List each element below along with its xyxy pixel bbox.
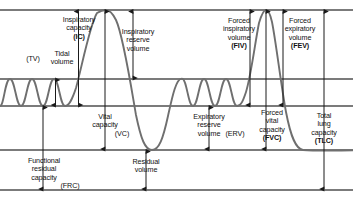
label-forced-expiratory-volume: Forced expiratory volume (FEV) [272,17,328,50]
label-functional-residual-capacity: Functional residual capacity [15,157,73,182]
label-forced-vital-capacity: Forced vital capacity (FVC) [249,109,295,142]
lung-volumes-diagram: Inspiratory capacity (IC) (TV) Tidal vol… [0,0,353,201]
label-vital-capacity-abbr: (VC) [110,130,134,138]
label-tidal-volume-abbr: (TV) [22,55,44,63]
label-tidal-volume: Tidal volume [43,50,81,67]
label-functional-residual-capacity-abbr: (FRC) [56,182,84,190]
label-inspiratory-reserve-volume: Inspiratory reserve volume [104,28,172,53]
label-residual-volume: Residual volume [120,158,172,175]
label-total-lung-capacity: Total lung capacity (TLC) [300,112,348,145]
label-expiratory-reserve-volume-abbr: (ERV) [221,130,249,138]
label-forced-inspiratory-volume: Forced inspiratory volume (FIV) [211,17,267,50]
label-vital-capacity: Vital capacity [78,113,132,130]
